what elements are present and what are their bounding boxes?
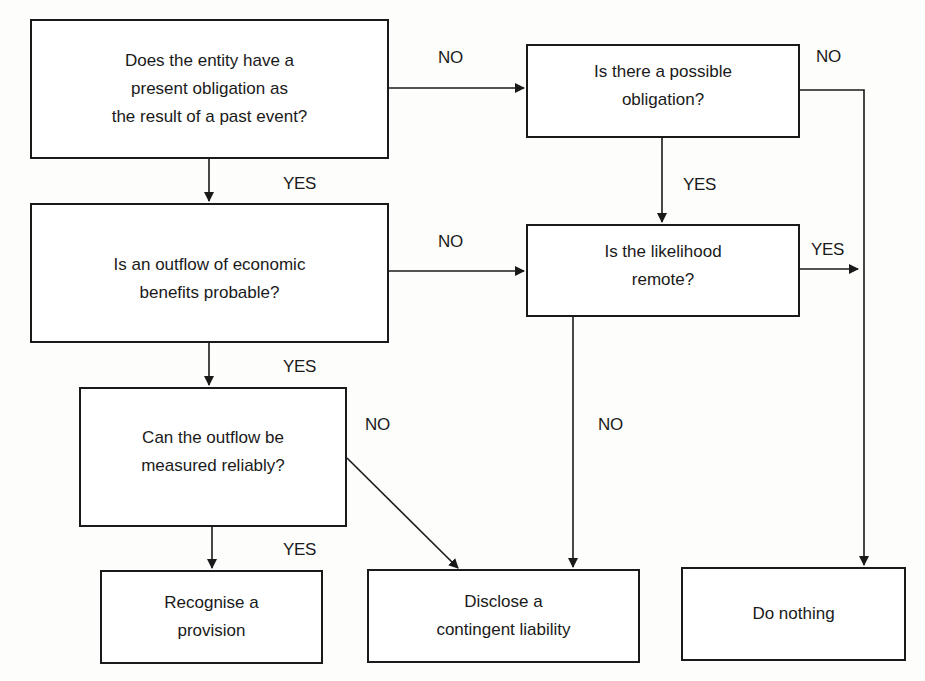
edge-label-q3-yes: YES	[283, 357, 316, 377]
edge-label-q3-no: NO	[438, 232, 463, 252]
edge-q2-no	[799, 90, 864, 565]
decision-measured-reliably: Can the outflow be measured reliably?	[79, 387, 347, 527]
decision-outflow-probable: Is an outflow of economic benefits proba…	[30, 203, 389, 343]
outcome-recognise-provision: Recognise a provision	[100, 570, 323, 664]
edge-label-q4-no: NO	[598, 415, 623, 435]
decision-possible-obligation: Is there a possible obligation?	[526, 44, 800, 138]
edge-label-q2-no: NO	[816, 47, 841, 67]
edge-label-q1-yes: YES	[283, 174, 316, 194]
node-text: Can the outflow be measured reliably?	[141, 424, 285, 480]
node-text: Disclose a contingent liability	[436, 588, 570, 644]
decision-present-obligation: Does the entity have a present obligatio…	[30, 19, 389, 159]
edge-label-q5-yes: YES	[283, 540, 316, 560]
outcome-disclose-contingent-liability: Disclose a contingent liability	[367, 569, 640, 663]
node-text: Is there a possible obligation?	[594, 58, 732, 114]
node-text: Do nothing	[752, 600, 834, 628]
edge-label-q1-no: NO	[438, 48, 463, 68]
node-text: Does the entity have a present obligatio…	[112, 47, 308, 131]
node-text: Is an outflow of economic benefits proba…	[114, 251, 306, 307]
edge-label-q5-no: NO	[365, 415, 390, 435]
node-text: Recognise a provision	[164, 589, 259, 645]
edge-q5-no	[347, 458, 458, 568]
outcome-do-nothing: Do nothing	[681, 567, 906, 661]
edge-label-q2-yes: YES	[683, 175, 716, 195]
edge-label-q4-yes: YES	[811, 240, 844, 260]
node-text: Is the likelihood remote?	[604, 238, 721, 294]
decision-likelihood-remote: Is the likelihood remote?	[526, 224, 800, 317]
